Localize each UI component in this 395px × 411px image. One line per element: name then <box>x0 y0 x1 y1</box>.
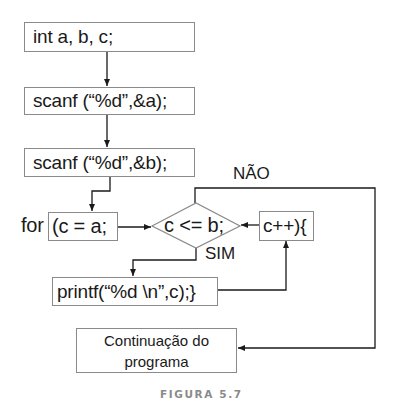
node-declare-text: int a, b, c; <box>33 26 113 48</box>
edge-condition-print <box>133 248 196 276</box>
node-init: (c = a; <box>48 212 118 241</box>
edge-label-yes: SIM <box>205 244 235 264</box>
edge-label-no: NÃO <box>233 164 270 184</box>
node-print-text: printf(“%d \n”,c);} <box>57 281 196 303</box>
node-continuation-line1: Continuação do <box>104 330 209 351</box>
node-scan-b-text: scanf (“%d”,&b); <box>33 152 167 174</box>
node-increment-text: c++){ <box>263 215 306 237</box>
node-condition-text: c <= b; <box>164 214 224 237</box>
node-scan-a-text: scanf (“%d”,&a); <box>33 90 167 112</box>
for-keyword: for <box>21 214 44 237</box>
node-declare: int a, b, c; <box>24 22 195 52</box>
node-init-text: (c = a; <box>52 215 107 238</box>
node-increment: c++){ <box>259 211 314 241</box>
figure-caption: FIGURA 5.7 <box>160 388 243 400</box>
node-continuation: Continuação do programa <box>76 328 237 373</box>
node-scan-b: scanf (“%d”,&b); <box>24 148 195 177</box>
edge-scan-b-init <box>92 176 110 211</box>
node-scan-a: scanf (“%d”,&a); <box>24 87 195 115</box>
node-print: printf(“%d \n”,c);} <box>52 277 218 306</box>
node-continuation-line2: programa <box>124 351 188 372</box>
